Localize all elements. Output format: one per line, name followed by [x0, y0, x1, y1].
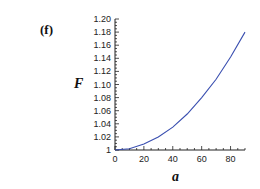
y-tick-label: 1: [106, 145, 111, 155]
y-tick-label: 1.16: [93, 40, 111, 50]
y-tick-label: 1.14: [93, 53, 111, 63]
x-tick-label: 60: [197, 154, 207, 164]
y-tick-label: 1.08: [93, 93, 111, 103]
y-tick-label: 1.04: [93, 119, 111, 129]
y-tick-label: 1.18: [93, 27, 111, 37]
x-tick-label: 80: [226, 154, 236, 164]
y-tick-label: 1.02: [93, 132, 111, 142]
data-line: [115, 32, 245, 150]
y-tick-label: 1.20: [93, 14, 111, 24]
y-tick-label: 1.10: [93, 80, 111, 90]
y-tick-label: 1.06: [93, 106, 111, 116]
x-tick-label: 40: [168, 154, 178, 164]
x-tick-label: 20: [139, 154, 149, 164]
x-tick-label: 0: [112, 154, 117, 164]
chart-plot: 11.021.041.061.081.101.121.141.161.181.2…: [0, 0, 260, 189]
y-tick-label: 1.12: [93, 66, 111, 76]
